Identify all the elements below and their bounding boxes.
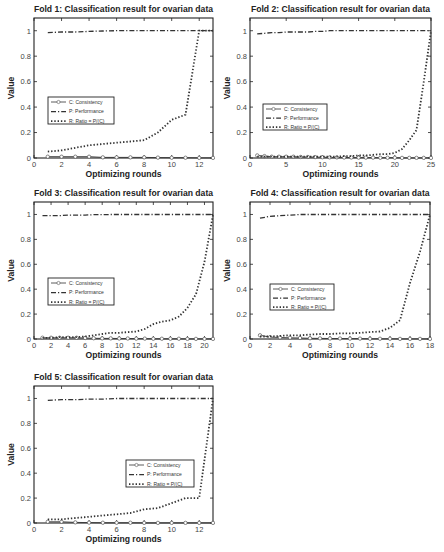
data-marker: [170, 521, 173, 524]
y-tick-label: 1: [243, 27, 247, 36]
y-tick-label: 0.8: [21, 235, 31, 244]
x-tick-label: 10: [318, 160, 326, 169]
data-marker: [308, 337, 311, 340]
data-marker: [60, 520, 63, 523]
y-axis-label: Value: [6, 77, 16, 100]
series-line-3: [48, 31, 213, 152]
data-marker: [160, 337, 163, 340]
legend: C: ConsistencyP: PerformanceR: Ratio = P…: [263, 104, 327, 130]
data-marker: [368, 337, 371, 340]
x-tick-label: 18: [183, 341, 191, 350]
data-marker: [129, 156, 132, 159]
series-line-3: [48, 399, 213, 520]
y-tick-label: 0: [27, 519, 31, 528]
chart-title: Fold 4: Classification result for ovaria…: [250, 188, 429, 198]
chart-title: Fold 2: Classification result for ovaria…: [251, 4, 430, 14]
series-group: [258, 215, 431, 341]
y-tick-label: 0.8: [237, 235, 247, 244]
y-tick-label: 0: [243, 154, 247, 163]
y-axis-label: Value: [222, 259, 232, 282]
data-marker: [156, 156, 159, 159]
chart-panel-5: Fold 5: Classification result for ovaria…: [6, 372, 215, 544]
data-marker: [170, 156, 173, 159]
y-tick-label: 0: [27, 335, 31, 344]
x-tick-label: 12: [195, 525, 203, 534]
data-marker: [169, 337, 172, 340]
data-marker: [358, 337, 361, 340]
data-marker: [348, 337, 351, 340]
y-tick-label: 0.4: [237, 103, 247, 112]
data-marker: [328, 337, 331, 340]
x-axis-label: Optimizing rounds: [86, 350, 162, 360]
series-line-2: [48, 399, 213, 401]
data-marker: [318, 337, 321, 340]
legend-marker: [272, 107, 275, 110]
data-marker: [109, 337, 112, 340]
series-line-2: [43, 215, 214, 216]
series-group: [41, 215, 215, 341]
x-tick-label: 6: [308, 341, 312, 350]
data-marker: [203, 337, 206, 340]
x-axis-label: Optimizing rounds: [303, 169, 379, 179]
legend-label: C: Consistency: [284, 106, 318, 112]
data-marker: [152, 337, 155, 340]
data-marker: [74, 155, 77, 158]
y-tick-label: 0.4: [237, 285, 247, 294]
x-tick-label: 2: [59, 525, 63, 534]
legend-marker: [57, 281, 60, 284]
legend-marker: [57, 100, 60, 103]
y-tick-label: 0.2: [237, 310, 247, 319]
data-marker: [364, 156, 367, 159]
x-tick-label: 16: [406, 341, 414, 350]
data-marker: [211, 521, 214, 524]
data-marker: [379, 156, 382, 159]
data-marker: [87, 155, 90, 158]
data-marker: [211, 156, 214, 159]
data-marker: [371, 156, 374, 159]
x-tick-label: 6: [115, 160, 119, 169]
chart-panel-2: Fold 2: Classification result for ovaria…: [222, 4, 435, 179]
data-marker: [415, 156, 418, 159]
x-tick-label: 14: [386, 341, 394, 350]
series-line-1: [260, 335, 430, 339]
legend-label: R: Ratio = P/(C): [69, 299, 105, 305]
data-marker: [129, 521, 132, 524]
data-marker: [378, 337, 381, 340]
axes-box: [34, 386, 213, 523]
x-tick-label: 8: [142, 525, 146, 534]
data-marker: [87, 521, 90, 524]
x-tick-label: 4: [87, 525, 91, 534]
x-tick-label: 14: [149, 341, 157, 350]
axes-box: [250, 202, 430, 339]
y-axis-ticks: 00.20.40.60.81: [237, 210, 430, 344]
data-marker: [198, 156, 201, 159]
data-marker: [338, 337, 341, 340]
axes-box: [34, 18, 213, 158]
data-marker: [74, 521, 77, 524]
y-tick-label: 0.6: [21, 260, 31, 269]
series-group: [46, 31, 215, 160]
y-axis-ticks: 00.20.40.60.81: [21, 210, 213, 344]
series-line-2: [260, 215, 430, 219]
x-tick-label: 25: [427, 160, 435, 169]
x-tick-label: 12: [195, 160, 203, 169]
data-marker: [298, 336, 301, 339]
y-tick-label: 1: [27, 210, 31, 219]
x-tick-label: 0: [248, 341, 252, 350]
y-tick-label: 1: [27, 394, 31, 403]
data-marker: [92, 337, 95, 340]
y-tick-label: 0.2: [21, 494, 31, 503]
data-marker: [386, 156, 389, 159]
x-tick-label: 10: [346, 341, 354, 350]
x-tick-label: 12: [132, 341, 140, 350]
data-marker: [142, 156, 145, 159]
y-tick-label: 0.6: [21, 444, 31, 453]
data-marker: [101, 521, 104, 524]
data-marker: [418, 337, 421, 340]
x-tick-label: 0: [32, 341, 36, 350]
data-marker: [60, 155, 63, 158]
x-axis-ticks: 024681012: [32, 18, 203, 169]
x-tick-label: 8: [328, 341, 332, 350]
y-tick-label: 0.8: [21, 419, 31, 428]
y-axis-ticks: 00.20.40.60.81: [237, 27, 431, 163]
